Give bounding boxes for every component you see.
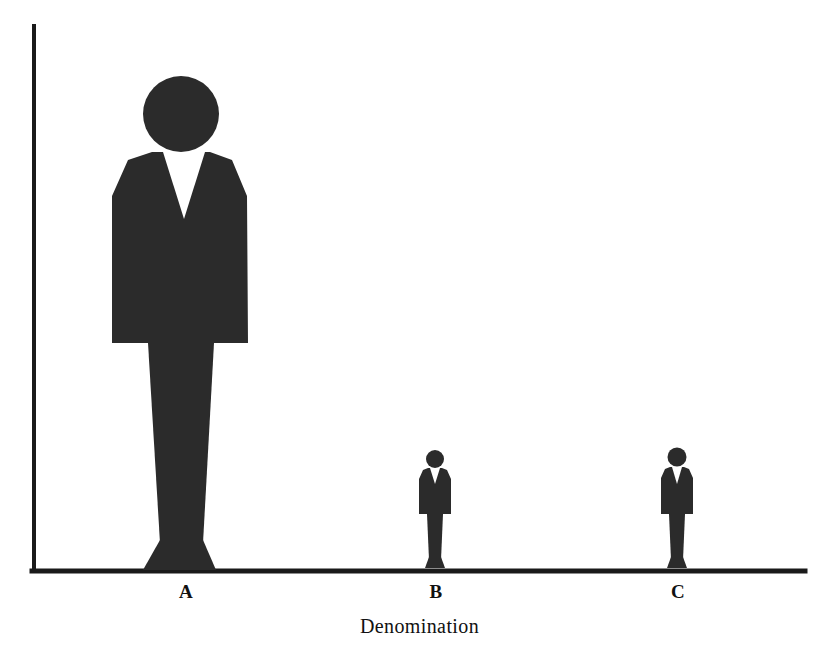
chart-plot-area <box>0 0 839 659</box>
pictogram-c-base <box>667 557 687 568</box>
pictogram-a-legs <box>148 343 214 543</box>
pictogram-b-legs <box>427 514 443 560</box>
pictogram-chart: A B C Denomination <box>0 0 839 659</box>
x-axis-title: Denomination <box>0 615 839 638</box>
x-tick-label-a: A <box>156 582 216 601</box>
x-tick-label-b: B <box>406 582 466 601</box>
pictogram-figure-a <box>112 76 248 570</box>
pictogram-figure-b <box>419 450 451 568</box>
pictogram-b-base <box>425 557 445 568</box>
pictogram-figure-c <box>661 448 693 569</box>
pictogram-b-head <box>426 450 444 468</box>
pictogram-a-head <box>143 76 219 152</box>
x-tick-label-c: C <box>648 582 708 601</box>
pictogram-c-legs <box>669 514 685 560</box>
pictogram-c-head <box>668 448 687 467</box>
pictogram-a-base <box>143 540 216 570</box>
